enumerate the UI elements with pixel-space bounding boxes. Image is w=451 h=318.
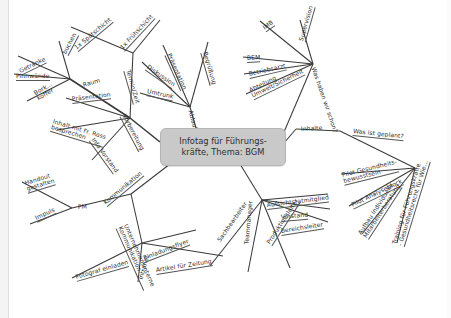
- mindmap-label-pinnwaende[interactable]: Pinnwände: [16, 73, 50, 81]
- mindmap-label-inhalte[interactable]: Inhalte: [301, 125, 323, 133]
- central-topic-node[interactable]: Infotag für Führungs- kräfte, Thema: BGM: [160, 128, 286, 166]
- mindmap-label-pm[interactable]: PM: [78, 204, 87, 211]
- mindmap-edge: [240, 164, 262, 200]
- mindmap-canvas: GetränkebuchenPinnwändeBork... koffer1x …: [0, 0, 451, 318]
- mindmap-label-bem[interactable]: BEM: [247, 54, 261, 63]
